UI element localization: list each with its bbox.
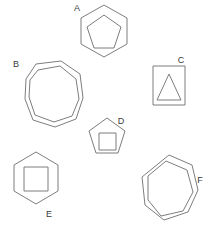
inner-triangle-c: [157, 74, 181, 100]
shape-group-b: B: [13, 59, 83, 127]
shape-label-c: C: [178, 55, 185, 65]
shape-group-f: F: [142, 155, 203, 220]
outer-heptagon-f: [142, 155, 198, 220]
inner-octagon-b: [29, 66, 79, 122]
shape-label-d: D: [118, 116, 125, 126]
shape-label-f: F: [197, 175, 203, 185]
shape-group-c: C: [153, 55, 185, 105]
inner-heptagon-f: [148, 161, 193, 216]
shape-label-e: E: [46, 209, 52, 219]
shape-group-a: A: [74, 3, 127, 57]
shape-label-b: B: [13, 59, 19, 69]
shape-group-d: D: [89, 116, 125, 153]
outer-octagon-b: [25, 61, 83, 127]
inner-square-e: [24, 167, 48, 191]
outer-hexagon-e: [14, 152, 58, 204]
figure-canvas: ABCDEF: [0, 0, 212, 232]
shape-diagram: ABCDEF: [0, 0, 212, 232]
inner-pentagon-a: [87, 15, 121, 48]
shape-label-a: A: [74, 3, 80, 13]
inner-square-d: [99, 133, 116, 150]
shape-group-e: E: [14, 152, 58, 219]
